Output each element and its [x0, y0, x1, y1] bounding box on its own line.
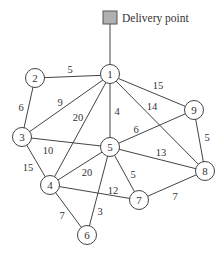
weight-1-4: 20 — [73, 112, 84, 123]
node-1-label: 1 — [107, 68, 113, 80]
node-5-label: 5 — [107, 141, 113, 153]
node-3-label: 3 — [19, 131, 25, 143]
weight-1-2: 5 — [67, 64, 72, 75]
weight-4-6: 7 — [59, 210, 64, 221]
weight-5-8: 13 — [156, 147, 167, 158]
weight-3-4: 15 — [23, 162, 34, 173]
node-2-label: 2 — [32, 72, 38, 84]
weight-5-9: 6 — [133, 124, 138, 135]
node-4: 4 — [41, 176, 60, 195]
node-9-label: 9 — [191, 104, 197, 116]
node-4-label: 4 — [47, 179, 53, 191]
edge-5-6 — [87, 147, 110, 235]
network-graph: Delivery point 5 9 20 4 14 15 6 10 15 20… — [0, 0, 222, 259]
weight-1-9: 15 — [153, 80, 164, 91]
node-7-label: 7 — [136, 194, 142, 206]
node-9: 9 — [185, 101, 204, 120]
node-8-label: 8 — [202, 165, 208, 177]
delivery-point-label: Delivery point — [122, 12, 190, 25]
weight-3-5: 10 — [43, 145, 54, 156]
node-5: 5 — [101, 138, 120, 157]
edge-5-9 — [110, 110, 194, 147]
weight-7-8: 7 — [172, 191, 177, 202]
edge-3-5 — [22, 137, 110, 147]
node-8: 8 — [196, 162, 215, 181]
weight-4-7: 12 — [108, 185, 119, 196]
node-6: 6 — [78, 226, 97, 245]
edge-1-4 — [50, 75, 110, 185]
delivery-point-icon — [103, 11, 117, 24]
weight-5-6: 3 — [97, 206, 102, 217]
weight-2-3: 6 — [18, 102, 23, 113]
weight-1-8: 14 — [147, 101, 158, 112]
weight-8-9: 5 — [204, 132, 209, 143]
edge-4-5 — [50, 147, 110, 185]
node-6-label: 6 — [84, 229, 90, 241]
node-1: 1 — [101, 65, 120, 84]
edge-1-2 — [35, 75, 110, 78]
weight-4-5: 20 — [82, 167, 93, 178]
node-7: 7 — [130, 191, 149, 210]
weight-1-5: 4 — [114, 106, 120, 117]
node-2: 2 — [26, 69, 45, 88]
edge-4-7 — [50, 185, 139, 200]
node-3: 3 — [13, 128, 32, 147]
weight-1-3: 9 — [57, 97, 62, 108]
weight-5-7: 5 — [130, 169, 135, 180]
